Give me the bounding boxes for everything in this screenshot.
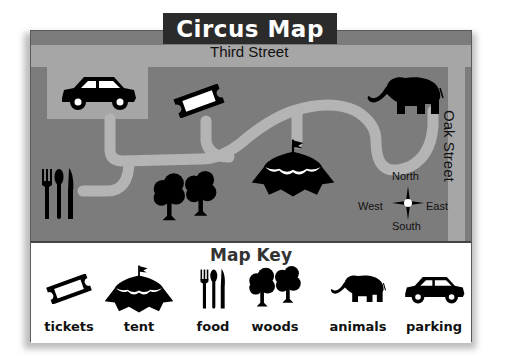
tent-icon xyxy=(250,137,336,199)
compass-star-icon xyxy=(392,186,424,220)
elephant-icon xyxy=(329,272,387,306)
elephant-icon xyxy=(365,74,445,118)
map-key: Map Key tickets tent food woods animals … xyxy=(31,241,471,343)
title-banner: Circus Map xyxy=(163,13,337,44)
compass-west: West xyxy=(358,200,383,212)
trees-icon xyxy=(150,171,220,227)
ticket-icon xyxy=(44,274,94,304)
compass-east: East xyxy=(426,200,448,212)
car-icon xyxy=(402,273,466,305)
map-key-title: Map Key xyxy=(31,245,471,265)
tent-icon xyxy=(103,264,175,314)
key-item-animals: animals xyxy=(323,265,393,334)
key-item-tickets: tickets xyxy=(39,265,99,334)
compass-north: North xyxy=(392,170,419,182)
key-item-tent: tent xyxy=(99,265,179,334)
car-icon xyxy=(58,72,138,112)
key-item-food: food xyxy=(188,265,238,334)
key-item-parking: parking xyxy=(399,265,469,334)
ticket-icon xyxy=(171,84,227,118)
key-item-woods: woods xyxy=(245,265,305,334)
compass-rose: North West East South xyxy=(356,166,466,246)
map-title: Circus Map xyxy=(176,16,324,42)
utensils-icon xyxy=(199,267,227,311)
compass-south: South xyxy=(392,220,421,232)
utensils-icon xyxy=(40,167,76,221)
trees-icon xyxy=(247,266,303,312)
third-street-label: Third Street xyxy=(210,43,288,60)
